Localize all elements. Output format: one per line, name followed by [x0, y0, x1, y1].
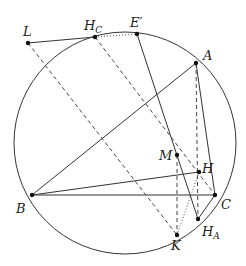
geometry-diagram: L HC E′ A B C H M HA K [0, 0, 246, 266]
label-H: H [201, 161, 214, 176]
dashed-L-K [28, 43, 177, 235]
label-A: A [202, 48, 212, 63]
segment-Ep-HA [137, 34, 198, 219]
label-M: M [158, 148, 173, 163]
point-Ep [135, 32, 139, 36]
point-C [213, 193, 217, 197]
label-C: C [221, 197, 231, 212]
point-B [30, 193, 34, 197]
segment-A-B [32, 63, 196, 195]
label-HC: HC [83, 18, 102, 35]
point-K [175, 233, 179, 237]
circumcircle [14, 32, 236, 254]
dashed-A-HA [196, 63, 198, 219]
segment-HA-C [198, 195, 215, 219]
dotted-K-H [177, 172, 199, 235]
point-HC [93, 35, 97, 39]
label-B: B [15, 201, 26, 216]
point-L [26, 41, 30, 45]
point-A [194, 61, 198, 65]
label-L: L [22, 24, 32, 39]
label-Ep: E′ [129, 15, 142, 30]
point-M [175, 153, 179, 157]
point-H [197, 170, 201, 174]
label-HA: HA [201, 224, 220, 241]
point-HA [196, 217, 200, 221]
label-K: K [170, 238, 182, 253]
